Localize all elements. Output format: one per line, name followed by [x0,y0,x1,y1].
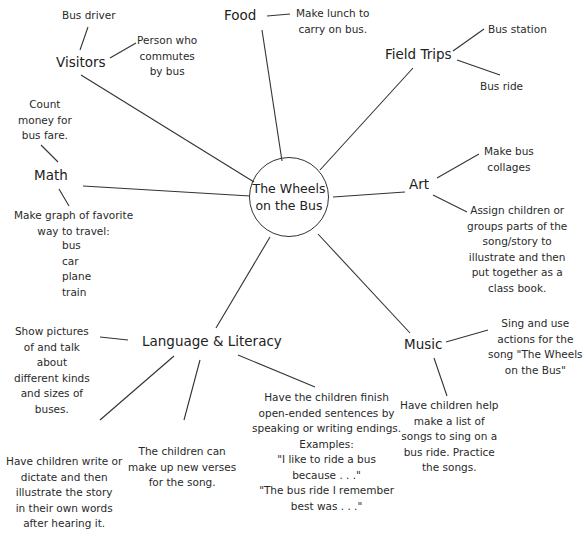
topic-field-trips: Field Trips [385,46,452,62]
topic-language-literacy: Language & Literacy [142,333,282,349]
center-line-2: on the Bus [255,197,322,214]
note-songs-list: Have children help make a list of songs … [400,398,499,476]
note-graph: Make graph of favorite way to travel: [14,208,133,239]
central-topic: The Wheels on the Bus [249,157,329,237]
note-bus-ride: Bus ride [480,79,523,95]
center-line-1: The Wheels [253,180,326,197]
note-graph-options: bus car plane train [62,238,91,300]
note-write-dictate: Have children write or dictate and then … [6,454,122,532]
topic-visitors: Visitors [56,54,106,70]
note-new-verses: The children can make up new verses for … [128,444,236,491]
note-count-money: Count money for bus fare. [18,97,72,144]
topic-music: Music [404,336,442,352]
note-bus-station: Bus station [488,22,547,38]
note-show-pictures: Show pictures of and talk about differen… [14,324,90,417]
note-commuter: Person who commutes by bus [137,33,197,80]
topic-math: Math [34,167,68,183]
note-open-ended: Have the children finish open-ended sent… [252,390,401,514]
topic-food: Food [224,7,256,23]
note-collages: Make bus collages [484,144,534,175]
note-lunch: Make lunch to carry on bus. [296,6,370,37]
note-class-book: Assign children or groups parts of the s… [467,203,567,296]
note-sing-actions: Sing and use actions for the song "The W… [488,316,583,378]
topic-art: Art [409,176,429,192]
note-bus-driver: Bus driver [62,8,116,24]
